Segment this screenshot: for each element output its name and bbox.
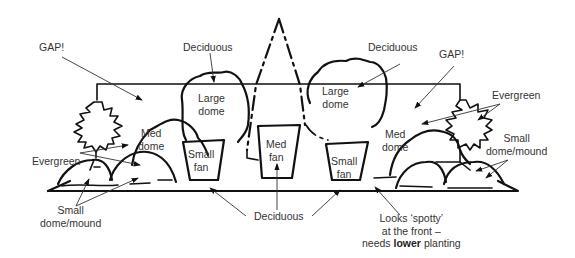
label-deciduous-bottom: Deciduous (254, 210, 304, 223)
label-deciduous-top-left: Deciduous (183, 41, 233, 54)
plant-label-small-fan-right: Small fan (331, 155, 357, 180)
label-small-dome-right: Small dome/mound (486, 132, 547, 157)
small-mounds-right (374, 162, 504, 188)
ground-line (48, 181, 518, 191)
back-wall (97, 84, 460, 100)
planting-diagram: GAP! Deciduous Deciduous GAP! Evergreen … (0, 0, 575, 258)
plant-label-large-dome-right: Large dome (322, 85, 349, 110)
label-evergreen-left: Evergreen (32, 155, 80, 168)
plant-label-med-dome-left: Med dome (138, 127, 164, 152)
plant-label-large-dome-left: Large dome (198, 92, 225, 117)
plant-label-med-dome-right: Med dome (382, 128, 408, 153)
label-evergreen-right: Evergreen (492, 89, 540, 102)
plant-label-small-fan-left: Small fan (188, 148, 214, 173)
evergreen-right-shape (436, 100, 492, 170)
label-gap-left: GAP! (39, 41, 64, 54)
label-small-dome-left: Small dome/mound (40, 204, 101, 229)
label-deciduous-top-right: Deciduous (368, 41, 418, 54)
label-looks-spotty: Looks ‘spotty’ at the front – needs lowe… (362, 212, 461, 250)
label-gap-right: GAP! (439, 48, 464, 61)
plant-label-med-fan-center: Med fan (266, 138, 286, 163)
